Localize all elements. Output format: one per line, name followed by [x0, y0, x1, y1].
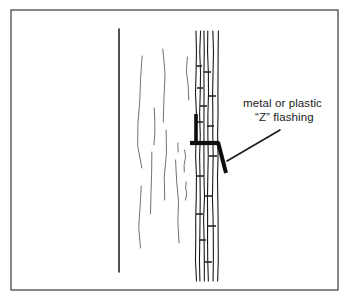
siding-board-line [204, 31, 205, 281]
annotation-label-line-1: metal or plastic [243, 97, 322, 109]
canvas-background [0, 0, 349, 305]
figure-root: metal or plastic “Z” flashing [0, 0, 349, 305]
annotation-label-line-2: “Z” flashing [255, 111, 314, 123]
z-flashing-detail-drawing: metal or plastic “Z” flashing [0, 0, 349, 305]
